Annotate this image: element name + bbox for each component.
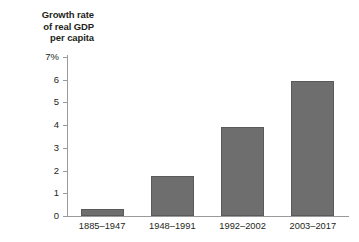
x-axis-tick-label: 1885–1947 [67, 221, 137, 231]
y-axis-tick-label: 7% [17, 52, 59, 62]
plot-area [67, 57, 348, 216]
bar [151, 176, 194, 216]
x-axis-line [67, 216, 349, 217]
y-axis-tick-label: 1 [17, 188, 59, 198]
chart-title-line-3: per capita [6, 32, 94, 44]
x-axis-tick-label: 2003–2017 [278, 221, 348, 231]
x-axis-tick-label: 1948–1991 [137, 221, 207, 231]
y-axis-tick-label: 4 [17, 120, 59, 130]
x-axis-tick-label: 1992–2002 [208, 221, 278, 231]
y-axis-tick-label: 5 [17, 97, 59, 107]
bar [291, 81, 334, 216]
bar [221, 127, 264, 216]
bar [81, 209, 124, 216]
chart-title-line-2: of real GDP [6, 21, 94, 33]
y-axis-tick-label: 3 [17, 143, 59, 153]
y-axis-tick-label: 2 [17, 166, 59, 176]
bar-chart-figure: Growth rate of real GDP per capita 01234… [0, 0, 359, 242]
y-axis-tick [63, 216, 67, 217]
y-axis-tick-label: 6 [17, 75, 59, 85]
y-axis-tick-label: 0 [17, 211, 59, 221]
chart-title: Growth rate of real GDP per capita [6, 9, 94, 44]
chart-title-line-1: Growth rate [6, 9, 94, 21]
